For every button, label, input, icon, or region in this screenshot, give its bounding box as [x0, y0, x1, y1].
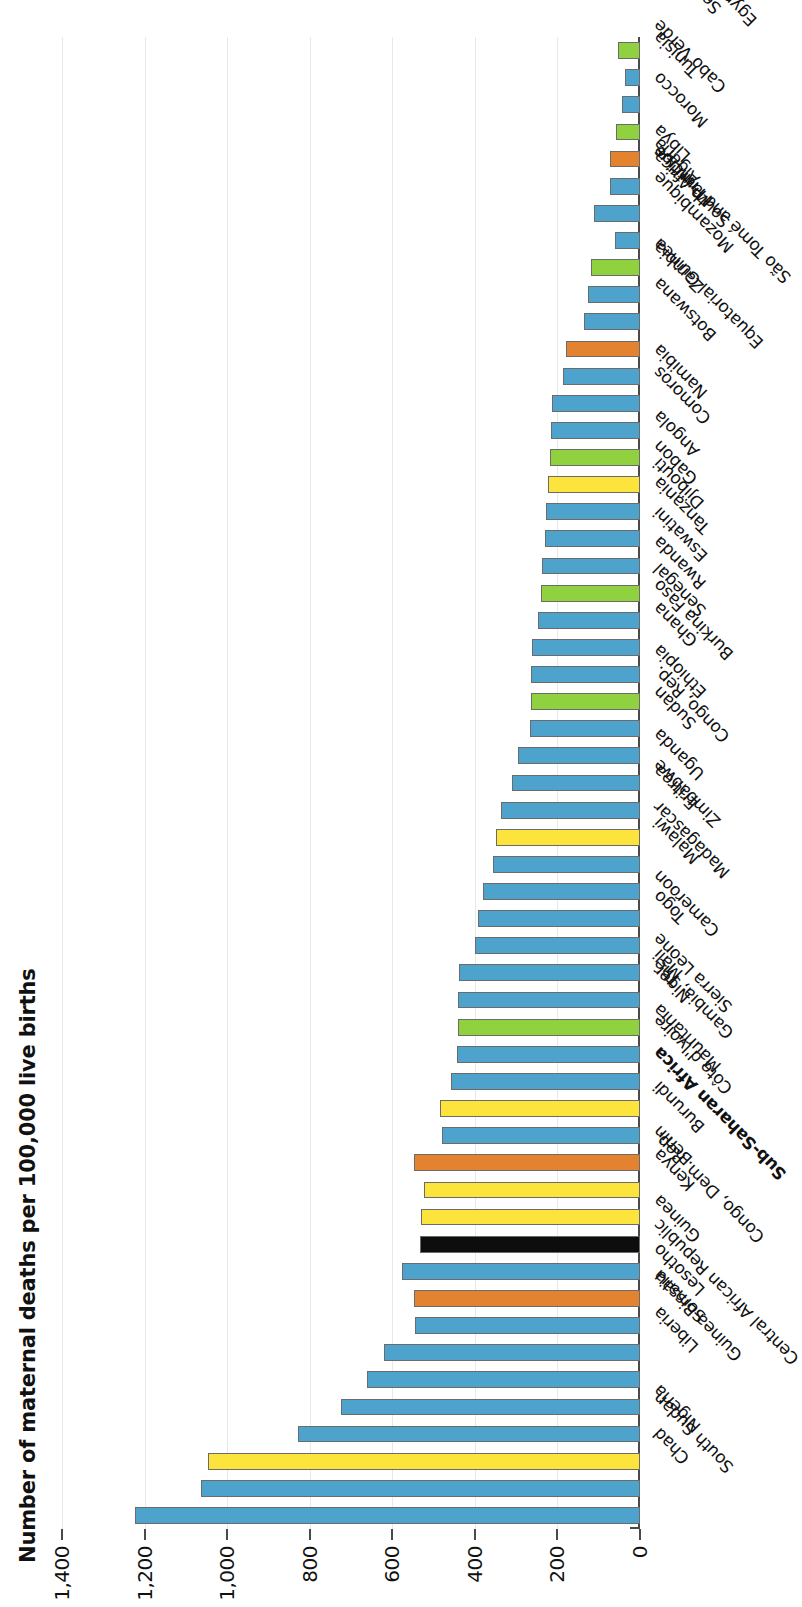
axis-tick	[639, 1529, 641, 1540]
bar	[563, 368, 640, 385]
bar	[414, 1290, 640, 1307]
bar	[532, 639, 640, 656]
bar	[610, 151, 640, 168]
bar	[542, 558, 640, 575]
bar	[594, 205, 640, 222]
bar	[458, 992, 640, 1009]
value-axis-title: Number of maternal deaths per 100,000 li…	[0, 0, 40, 1607]
axis-tick	[144, 1529, 146, 1540]
bar	[518, 747, 640, 764]
bar	[616, 124, 640, 141]
bar	[208, 1453, 640, 1470]
axis-tick	[309, 1529, 311, 1540]
axis-tick	[391, 1529, 393, 1540]
bar	[545, 530, 640, 547]
axis-tick	[474, 1529, 476, 1540]
bar	[591, 259, 640, 276]
bar	[512, 775, 640, 792]
bar	[493, 856, 640, 873]
bar	[424, 1182, 640, 1199]
bar	[298, 1426, 640, 1443]
value-tick-label: 400	[463, 1546, 487, 1583]
value-tick-label: 1,000	[215, 1546, 239, 1601]
bar	[451, 1073, 640, 1090]
bar	[548, 476, 640, 493]
bar	[458, 1019, 640, 1036]
bar	[478, 910, 640, 927]
bar	[501, 802, 640, 819]
value-tick-label: 600	[380, 1546, 404, 1583]
bar	[421, 1209, 640, 1226]
bar	[622, 96, 640, 113]
bar	[530, 720, 640, 737]
bar	[201, 1480, 640, 1497]
bar	[457, 1046, 640, 1063]
axis-tick	[61, 1529, 63, 1540]
value-tick-label: 800	[298, 1546, 322, 1583]
value-tick-label: 1,400	[50, 1546, 74, 1601]
bar	[538, 612, 640, 629]
bar	[584, 313, 640, 330]
bar	[550, 449, 640, 466]
bar	[475, 937, 640, 954]
gridline	[392, 37, 393, 1529]
bar	[414, 1154, 640, 1171]
category-label: Seychelles	[649, 0, 725, 18]
bar	[440, 1100, 640, 1117]
axis-tick	[556, 1529, 558, 1540]
bar	[588, 286, 640, 303]
plot-area: 02004006008001,0001,2001,400South SudanC…	[62, 37, 640, 1529]
gridline	[227, 37, 228, 1529]
axis-tick	[226, 1529, 228, 1540]
bar	[566, 341, 640, 358]
bar	[610, 178, 640, 195]
bar	[496, 829, 640, 846]
bar	[402, 1263, 640, 1280]
value-tick-label: 1,200	[133, 1546, 157, 1601]
bar	[442, 1127, 640, 1144]
bar	[531, 693, 640, 710]
bar	[483, 883, 640, 900]
bar	[341, 1399, 640, 1416]
bar	[615, 232, 640, 249]
bar	[625, 69, 640, 86]
bar	[546, 503, 640, 520]
bar	[618, 42, 640, 59]
bar	[551, 422, 640, 439]
value-tick-label: 200	[545, 1546, 569, 1583]
bar	[531, 666, 640, 683]
gridline	[62, 37, 63, 1529]
gridline	[145, 37, 146, 1529]
bar	[420, 1236, 640, 1253]
value-tick-label: 0	[628, 1546, 652, 1558]
bar	[541, 585, 640, 602]
bar	[367, 1371, 640, 1388]
bar	[552, 395, 640, 412]
bar	[135, 1507, 640, 1524]
gridline	[310, 37, 311, 1529]
bar	[415, 1317, 640, 1334]
bar	[459, 965, 640, 982]
bar	[384, 1344, 640, 1361]
